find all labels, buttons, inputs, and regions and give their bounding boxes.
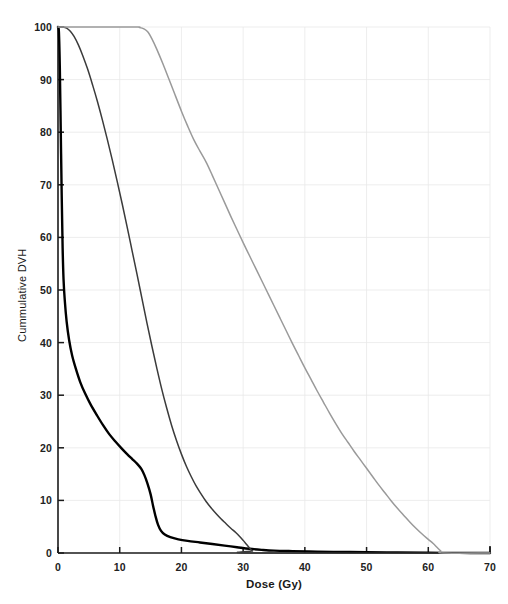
y-tick-label: 10 bbox=[18, 494, 52, 506]
y-tick-label: 100 bbox=[18, 21, 52, 33]
y-tick-label: 20 bbox=[18, 442, 52, 454]
plot-canvas bbox=[0, 0, 508, 604]
x-axis-title: Dose (Gy) bbox=[0, 578, 508, 590]
x-tick-label: 20 bbox=[175, 561, 187, 573]
y-axis-title: Cummulative DVH bbox=[16, 249, 28, 342]
dvh-chart: 0102030405060708090100 010203040506070 C… bbox=[0, 0, 508, 604]
x-tick-label: 30 bbox=[237, 561, 249, 573]
y-tick-label: 70 bbox=[18, 179, 52, 191]
y-tick-label: 80 bbox=[18, 126, 52, 138]
y-tick-label: 0 bbox=[18, 547, 52, 559]
x-tick-label: 0 bbox=[55, 561, 61, 573]
y-tick-label: 90 bbox=[18, 74, 52, 86]
x-tick-label: 60 bbox=[422, 561, 434, 573]
x-tick-label: 50 bbox=[361, 561, 373, 573]
x-tick-label: 40 bbox=[299, 561, 311, 573]
x-tick-label: 70 bbox=[484, 561, 496, 573]
gridlines bbox=[58, 27, 490, 553]
x-tick-label: 10 bbox=[114, 561, 126, 573]
y-tick-label: 60 bbox=[18, 231, 52, 243]
y-tick-label: 30 bbox=[18, 389, 52, 401]
